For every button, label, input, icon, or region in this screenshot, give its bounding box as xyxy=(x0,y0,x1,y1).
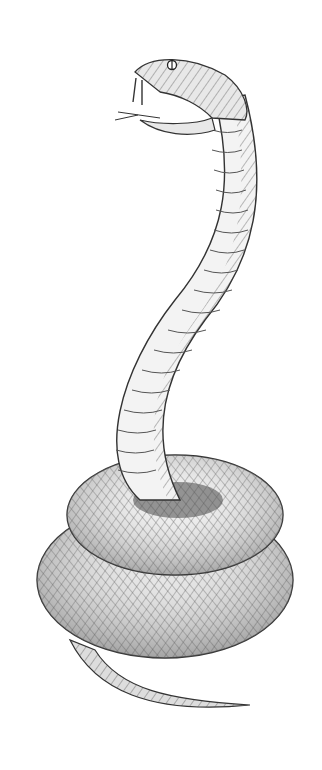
snake-illustration xyxy=(0,0,322,770)
raised-body xyxy=(116,95,257,500)
tongue xyxy=(115,112,160,120)
upper-coil xyxy=(67,455,283,575)
